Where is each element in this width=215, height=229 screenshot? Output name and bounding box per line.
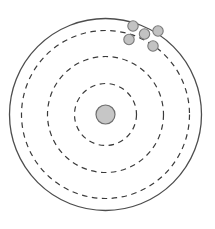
shot-point bbox=[139, 29, 149, 39]
target-svg bbox=[0, 0, 215, 229]
bullseye-center-marker bbox=[96, 105, 115, 124]
shot-point bbox=[153, 26, 163, 36]
shot-point bbox=[124, 34, 134, 44]
shot-point bbox=[148, 41, 158, 51]
target-diagram bbox=[0, 0, 215, 229]
shot-point bbox=[128, 21, 138, 31]
